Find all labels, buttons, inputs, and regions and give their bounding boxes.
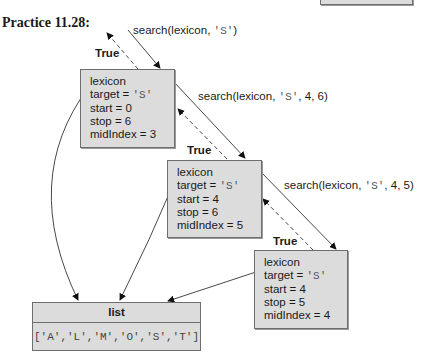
stack-frame-3: lexicon target = 'S' start = 4 stop = 5 … — [254, 250, 348, 329]
return-label-3: True — [273, 235, 297, 247]
stack-frame-1: lexicon target = 'S' start = 0 stop = 6 … — [80, 69, 175, 148]
call-label-2: search(lexicon, 'S', 4, 6) — [198, 90, 328, 103]
return-label-2: True — [187, 144, 211, 156]
list-header: list — [33, 303, 200, 323]
return-label-1: True — [95, 47, 119, 59]
stack-frame-2: lexicon target = 'S' start = 4 stop = 6 … — [167, 160, 262, 238]
list-object: list ['A','L','M','O','S','T'] — [32, 302, 201, 351]
call-label-1: search(lexicon, 'S') — [133, 24, 237, 37]
call-label-3: search(lexicon, 'S', 4, 5) — [284, 179, 414, 192]
list-value: ['A','L','M','O','S','T'] — [33, 323, 200, 351]
